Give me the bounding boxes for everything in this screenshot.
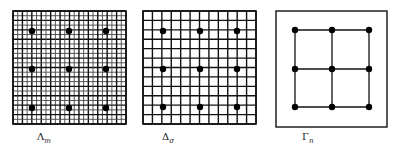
lambda-lattice-point xyxy=(103,105,109,111)
gamma-node xyxy=(292,66,298,72)
gamma-node xyxy=(366,66,372,72)
delta-label-sub: σ xyxy=(169,137,174,145)
lambda-lattice-point xyxy=(66,66,72,72)
lambda-lattice-point xyxy=(29,105,35,111)
lambda-label: Λm xyxy=(37,131,51,145)
gamma-node xyxy=(329,104,335,110)
delta-label: Δσ xyxy=(162,131,174,145)
delta-lattice-point xyxy=(160,104,166,110)
gamma-node xyxy=(292,27,298,33)
gamma-label-main: Γ xyxy=(302,131,309,142)
delta-lattice-point xyxy=(160,66,166,72)
gamma-label-sub: n xyxy=(309,137,314,145)
delta-lattice-point xyxy=(160,28,166,34)
delta-lattice-point xyxy=(234,66,240,72)
delta-lattice-point xyxy=(234,104,240,110)
gamma-label: Γn xyxy=(302,131,313,145)
lambda-grid-panel xyxy=(13,11,126,124)
delta-grid-panel xyxy=(143,11,256,124)
delta-lattice-point xyxy=(234,28,240,34)
gamma-node xyxy=(366,27,372,33)
gamma-node xyxy=(329,66,335,72)
lambda-lattice-point xyxy=(29,66,35,72)
lambda-lattice-point xyxy=(103,66,109,72)
lambda-lattice-point xyxy=(66,28,72,34)
gamma-graph-panel xyxy=(276,11,387,127)
lambda-lattice-point xyxy=(66,105,72,111)
diagram-canvas xyxy=(0,0,397,151)
delta-lattice-point xyxy=(197,104,203,110)
delta-lattice-point xyxy=(197,28,203,34)
gamma-node xyxy=(366,104,372,110)
lambda-lattice-point xyxy=(29,28,35,34)
gamma-node xyxy=(329,27,335,33)
gamma-node xyxy=(292,104,298,110)
lambda-label-sub: m xyxy=(44,137,51,145)
lambda-lattice-point xyxy=(103,28,109,34)
delta-lattice-point xyxy=(197,66,203,72)
